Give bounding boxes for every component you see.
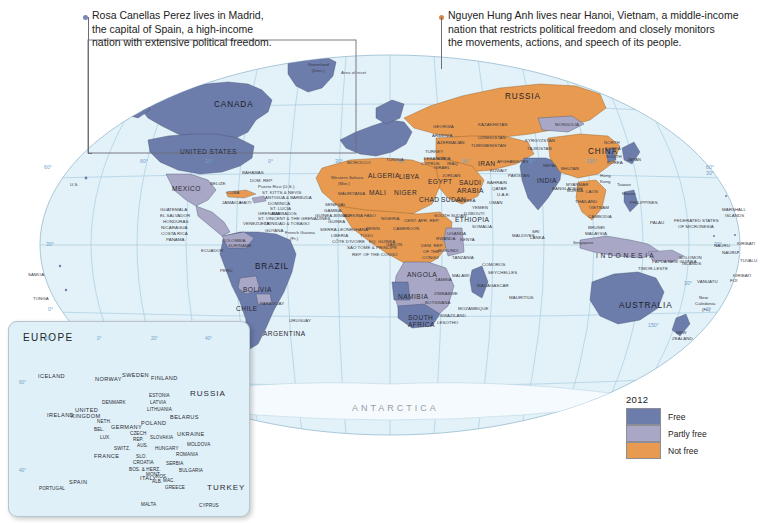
inset-graticule-label: 20° bbox=[45, 336, 52, 341]
legend-row: Free bbox=[626, 408, 707, 425]
legend-row: Partly free bbox=[626, 425, 707, 442]
inset-label: ROMANIA bbox=[176, 452, 198, 457]
legend-swatch bbox=[626, 425, 661, 442]
inset-label: TURKEY bbox=[207, 483, 245, 492]
inset-label: GREECE bbox=[165, 485, 185, 490]
legend-label: Free bbox=[668, 412, 685, 422]
inset-label: REP. bbox=[133, 437, 144, 442]
annotation-left-text: Rosa Canellas Perez lives in Madrid, the… bbox=[92, 9, 332, 50]
graticule-label: 60° bbox=[140, 158, 148, 164]
landmass-korea bbox=[606, 148, 616, 162]
graticule-label: 30° bbox=[714, 241, 722, 247]
legend-row: Not free bbox=[626, 442, 707, 459]
graticule-label: 30° bbox=[335, 158, 343, 164]
inset-label: FINLAND bbox=[151, 375, 178, 381]
inset-label: LATVIA bbox=[150, 400, 166, 405]
inset-label: UKRAINE bbox=[177, 431, 205, 437]
annotation-left-leader-horizontal bbox=[88, 153, 92, 154]
legend-rows: FreePartly freeNot free bbox=[626, 408, 707, 459]
graticule-label: 30° bbox=[46, 241, 54, 247]
legend: 2012 FreePartly freeNot free bbox=[626, 394, 707, 459]
inset-label: IRELAND bbox=[47, 412, 74, 418]
inset-label: CZECH bbox=[130, 431, 146, 436]
antarctica-label: ANTARCTICA bbox=[352, 403, 439, 413]
inset-label: ICELAND bbox=[38, 373, 65, 379]
graticule-label: 150° bbox=[648, 322, 659, 328]
inset-label: HUNGARY bbox=[155, 446, 179, 451]
legend-swatch bbox=[626, 408, 661, 425]
graticule-label: 30° bbox=[441, 236, 449, 242]
graticule-label: 0° bbox=[706, 306, 711, 312]
inset-label: MAC. bbox=[163, 478, 175, 483]
landmass-kenya-tanzania bbox=[444, 228, 464, 256]
inset-label: CROATIA bbox=[133, 460, 154, 465]
inset-label: ITALY bbox=[140, 475, 157, 481]
inset-graticule-label: 0° bbox=[97, 336, 101, 341]
world-map-figure: Rosa Canellas Perez lives in Madrid, the… bbox=[0, 0, 768, 523]
graticule-label: 30° bbox=[706, 170, 714, 176]
inset-label: SWITZ. bbox=[114, 446, 130, 451]
graticule-label: 0° bbox=[48, 306, 53, 312]
graticule-label: 60° bbox=[398, 158, 406, 164]
inset-label: LITHUANIA bbox=[147, 407, 172, 412]
inset-label: NORWAY bbox=[95, 376, 122, 382]
legend-label: Not free bbox=[668, 446, 698, 456]
inset-label: FRANCE bbox=[94, 453, 119, 459]
inset-label: SLOVAKIA bbox=[150, 435, 173, 440]
inset-label: BEL. bbox=[94, 427, 104, 432]
landmass-namibia bbox=[392, 282, 410, 300]
inset-label: SWEDEN bbox=[122, 372, 149, 378]
inset-label: AUS. bbox=[137, 443, 148, 448]
inset-label: SPAIN bbox=[69, 479, 87, 485]
legend-label: Partly free bbox=[668, 429, 707, 439]
landmass-paraguay bbox=[256, 294, 272, 304]
annotation-right-leader-vertical bbox=[441, 17, 442, 69]
inset-label: SERBIA bbox=[166, 461, 183, 466]
inset-label: GERMANY bbox=[111, 424, 142, 430]
inset-label: LUX. bbox=[100, 435, 111, 440]
inset-label: ESTONIA bbox=[149, 393, 170, 398]
inset-label: MOLDOVA bbox=[187, 442, 210, 447]
legend-swatch bbox=[626, 442, 661, 459]
graticule-label: 30° bbox=[684, 280, 692, 286]
legend-year: 2012 bbox=[626, 394, 707, 405]
europe-inset-panel[interactable]: EUROPE RUSSIAICELANDNORWAYSWEDENFINLANDE… bbox=[8, 321, 250, 517]
graticule-label: 150° bbox=[586, 158, 597, 164]
inset-graticule-label: 40° bbox=[205, 336, 212, 341]
inset-graticule-label: 40° bbox=[19, 468, 26, 473]
inset-label: CYPRUS bbox=[199, 503, 219, 508]
graticule-label: 60° bbox=[44, 164, 52, 170]
inset-graticule-label: 20° bbox=[151, 336, 158, 341]
graticule-label: 0° bbox=[268, 158, 273, 164]
annotation-right-text: Nguyen Hung Anh lives near Hanoi, Vietna… bbox=[448, 9, 758, 50]
inset-label: SLO. bbox=[136, 454, 147, 459]
graticule-label: 90° bbox=[462, 158, 470, 164]
inset-label: RUSSIA bbox=[190, 389, 226, 398]
inset-label: BELARUS bbox=[170, 414, 199, 420]
inset-label: POLAND bbox=[141, 420, 166, 426]
annotation-left-leader-vertical bbox=[88, 17, 89, 154]
inset-graticule-label: 60° bbox=[19, 380, 26, 385]
graticule-label: 30° bbox=[205, 158, 213, 164]
inset-label: NETH. bbox=[97, 419, 111, 424]
inset-label: DENMARK bbox=[102, 400, 126, 405]
graticule-label: 120° bbox=[524, 158, 535, 164]
inset-label: BULGARIA bbox=[179, 468, 203, 473]
inset-label: MALTA bbox=[141, 502, 156, 507]
inset-label: PORTUGAL bbox=[39, 486, 65, 491]
